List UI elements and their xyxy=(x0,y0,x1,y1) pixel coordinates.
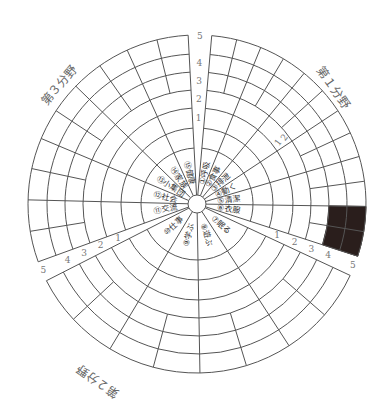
development-wheel-diagram: ①呼吸②食事③排泄④動く⑤清潔⑥衣服第１分野⑦眠る⑧遊ぶ⑨学ぶ⑩仕事第２分野⑪交… xyxy=(0,0,390,411)
field-3-spoke-3 xyxy=(76,86,191,198)
field-1-subspoke-4 xyxy=(310,181,364,188)
field-2-spoke-2 xyxy=(197,213,200,373)
field-3-subspoke-3 xyxy=(100,66,132,111)
field-1-ring-4 xyxy=(209,73,329,245)
field-2-subspoke-1 xyxy=(230,313,246,366)
field-3-subspoke-1 xyxy=(32,169,86,181)
gap-lower-right-scale-4: 4 xyxy=(325,250,331,260)
gap-lower-left-scale-4: 4 xyxy=(65,255,71,265)
item-label: ⑧遊ぶ xyxy=(199,222,215,247)
gap-lower-right-scale-1: 1 xyxy=(274,230,280,240)
gap-top-scale-1: 1 xyxy=(196,113,202,123)
gap-lower-left-scale-5: 5 xyxy=(41,265,47,275)
field-1-subspoke-3 xyxy=(300,133,350,156)
field-2-subspoke-2 xyxy=(153,314,167,367)
field-2-title: 第２分野 xyxy=(74,362,121,401)
gap-lower-left-scale-2: 2 xyxy=(98,240,104,250)
item-label: ⑦眠る xyxy=(209,214,232,236)
field-3-spoke-2 xyxy=(41,139,188,201)
gap-lower-left-scale-3: 3 xyxy=(81,248,87,258)
gap-lower-left-scale-1: 1 xyxy=(115,233,121,243)
item-label: ⑨学ぶ xyxy=(180,222,196,247)
gap-top-scale-4: 4 xyxy=(197,58,203,68)
item-label: ⑩仕事 xyxy=(161,214,185,237)
field-1-subspoke-1 xyxy=(255,59,283,106)
gap-lower-right-scale-2: 2 xyxy=(292,237,298,247)
field-2-spoke-4 xyxy=(46,208,189,281)
gap-top-scale-2: 2 xyxy=(196,94,202,104)
gap-top-scale-3: 3 xyxy=(196,76,202,86)
field-1-subspoke-0 xyxy=(224,40,237,93)
gap-lower-right-scale-5: 5 xyxy=(350,260,356,270)
field-3-title: 第３分野 xyxy=(38,63,80,109)
gap-top-scale-5: 5 xyxy=(197,31,203,41)
gap-lower-right-scale-3: 3 xyxy=(309,244,315,254)
field-3-subspoke-0 xyxy=(30,222,84,231)
field-2-subspoke-3 xyxy=(73,282,113,320)
center-hub xyxy=(188,195,206,213)
field-3-subspoke-4 xyxy=(157,40,170,93)
item-label: ⑪交流 xyxy=(153,202,178,216)
item-label: ⑥衣服 xyxy=(216,202,240,216)
field-1-ring-3 xyxy=(207,90,311,239)
